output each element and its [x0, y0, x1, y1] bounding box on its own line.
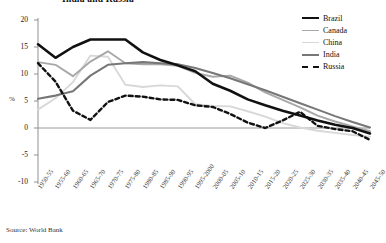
legend-item-russia[interactable]: Russia [302, 61, 374, 73]
y-tick-label: 10 [6, 70, 28, 78]
source-note: Source: World Bank [6, 226, 63, 234]
y-tick-label: 0 [6, 124, 28, 132]
legend-item-india[interactable]: India [302, 49, 374, 61]
y-tick-label: 15 [6, 43, 28, 51]
y-tick-label: 5 [6, 97, 28, 105]
legend-item-china[interactable]: China [302, 36, 374, 48]
legend-label: Russia [323, 62, 344, 71]
y-tick-label: -10 [6, 178, 28, 186]
legend-label: Brazil [323, 14, 343, 23]
y-tick-label: 20 [6, 16, 28, 24]
legend-label: China [323, 38, 342, 47]
legend-swatch-icon [302, 42, 319, 43]
legend-label: Canada [323, 26, 347, 35]
legend-label: India [323, 50, 339, 59]
legend-swatch-icon [302, 17, 319, 19]
legend-swatch-icon [302, 66, 319, 68]
legend-item-brazil[interactable]: Brazil [302, 12, 374, 24]
legend-swatch-icon [302, 54, 319, 56]
chart-legend: BrazilCanadaChinaIndiaRussia [302, 12, 374, 73]
legend-swatch-icon [302, 30, 319, 31]
legend-item-canada[interactable]: Canada [302, 24, 374, 36]
y-tick-label: -5 [6, 151, 28, 159]
